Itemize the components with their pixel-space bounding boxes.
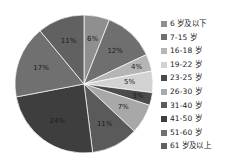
legend-item[interactable]: 51-60 岁 bbox=[161, 126, 235, 140]
legend-item-label: 61 岁及以上 bbox=[170, 139, 211, 153]
legend-item[interactable]: 23-25 岁 bbox=[161, 71, 235, 85]
legend-item[interactable]: 31-40 岁 bbox=[161, 99, 235, 113]
pie-slice-label: 12% bbox=[107, 47, 123, 55]
legend-item-label: 41-50 岁 bbox=[170, 112, 202, 126]
pie-chart-figure: 6%12%4%5%3%7%11%24%17%11% 6 岁及以下7-15 岁16… bbox=[0, 0, 235, 168]
pie-slice-label: 11% bbox=[61, 37, 77, 45]
pie-svg: 6%12%4%5%3%7%11%24%17%11% bbox=[14, 14, 154, 154]
legend-item[interactable]: 41-50 岁 bbox=[161, 112, 235, 126]
legend-item[interactable]: 26-30 岁 bbox=[161, 85, 235, 99]
pie-slice-label: 6% bbox=[87, 35, 98, 43]
legend-item[interactable]: 6 岁及以下 bbox=[161, 17, 235, 31]
legend-item-label: 16-18 岁 bbox=[170, 44, 202, 58]
legend-item[interactable]: 61 岁及以上 bbox=[161, 139, 235, 153]
pie-slice-label: 7% bbox=[118, 103, 129, 111]
legend-swatch-icon bbox=[161, 75, 167, 81]
legend-item-label: 6 岁及以下 bbox=[170, 17, 206, 31]
legend-item-label: 26-30 岁 bbox=[170, 85, 202, 99]
chart-legend: 6 岁及以下7-15 岁16-18 岁19-22 岁23-25 岁26-30 岁… bbox=[158, 0, 235, 168]
pie-slice-label: 17% bbox=[33, 64, 49, 72]
legend-item[interactable]: 16-18 岁 bbox=[161, 44, 235, 58]
legend-item-label: 31-40 岁 bbox=[170, 99, 202, 113]
pie-wrapper: 6%12%4%5%3%7%11%24%17%11% bbox=[14, 14, 154, 154]
legend-swatch-icon bbox=[161, 143, 167, 149]
legend-swatch-icon bbox=[161, 102, 167, 108]
pie-slice-label: 3% bbox=[132, 92, 143, 100]
pie-slice-label: 5% bbox=[124, 78, 135, 86]
legend-item-label: 23-25 岁 bbox=[170, 71, 202, 85]
legend-item-label: 51-60 岁 bbox=[170, 126, 202, 140]
pie-slice-label: 11% bbox=[97, 120, 113, 128]
legend-swatch-icon bbox=[161, 34, 167, 40]
legend-swatch-icon bbox=[161, 130, 167, 136]
legend-swatch-icon bbox=[161, 116, 167, 122]
legend-item-label: 7-15 岁 bbox=[170, 31, 197, 45]
legend-swatch-icon bbox=[161, 21, 167, 27]
chart-plot-area: 6%12%4%5%3%7%11%24%17%11% bbox=[0, 0, 158, 168]
legend-swatch-icon bbox=[161, 89, 167, 95]
legend-swatch-icon bbox=[161, 48, 167, 54]
legend-item-label: 19-22 岁 bbox=[170, 58, 202, 72]
pie-slice-label: 24% bbox=[49, 117, 65, 125]
legend-item[interactable]: 19-22 岁 bbox=[161, 58, 235, 72]
legend-item[interactable]: 7-15 岁 bbox=[161, 31, 235, 45]
pie-slice-label: 4% bbox=[131, 63, 142, 71]
legend-swatch-icon bbox=[161, 62, 167, 68]
